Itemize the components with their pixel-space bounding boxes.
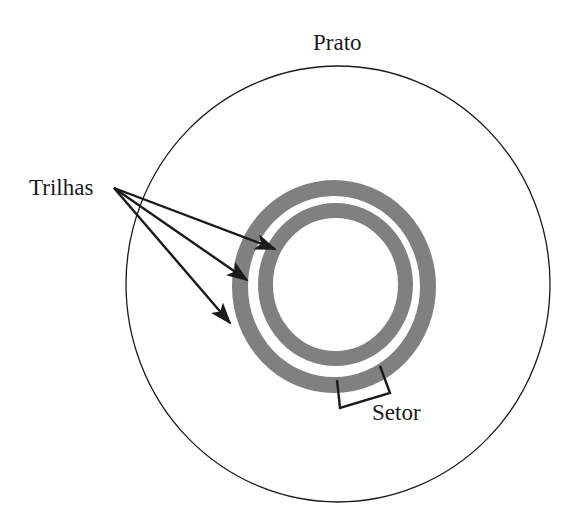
sector-label: Setor	[372, 400, 421, 425]
hard-disk-platter-diagram: Prato Trilhas Setor	[0, 0, 580, 521]
platter-label: Prato	[313, 30, 362, 55]
platter-outline	[126, 66, 550, 502]
inner-track	[266, 211, 406, 359]
arrow-to-inner-track	[114, 188, 275, 249]
tracks-label: Trilhas	[29, 175, 93, 200]
